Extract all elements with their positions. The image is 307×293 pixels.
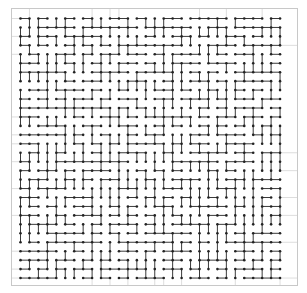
guide-lines xyxy=(11,8,297,285)
maze-nodes xyxy=(19,17,281,279)
maze-paths xyxy=(21,19,281,279)
maze-diagram xyxy=(0,0,307,293)
